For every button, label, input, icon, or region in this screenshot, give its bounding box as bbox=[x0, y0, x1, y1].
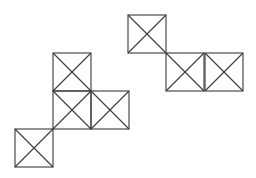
left-figure bbox=[15, 53, 129, 167]
crossed-square bbox=[205, 53, 243, 91]
crossed-square bbox=[15, 129, 53, 167]
right-figure bbox=[128, 15, 243, 91]
crossed-square bbox=[53, 91, 91, 129]
crossed-square bbox=[53, 53, 91, 91]
crossed-square bbox=[166, 53, 204, 91]
crossed-square bbox=[91, 91, 129, 129]
crossed-square bbox=[128, 15, 166, 53]
diagram-canvas bbox=[0, 0, 256, 178]
